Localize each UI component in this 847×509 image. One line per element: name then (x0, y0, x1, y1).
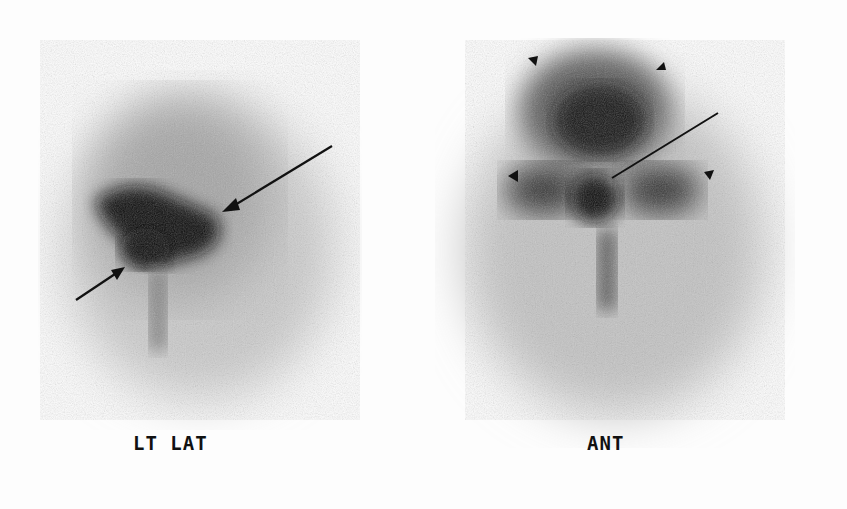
left-lateral-scan (40, 40, 360, 420)
anterior-scan (465, 40, 785, 420)
label-anterior: ANT (587, 432, 624, 454)
scan-images (0, 0, 847, 509)
scintigraphy-figure: LT LAT ANT (0, 0, 847, 509)
label-left-lateral: LT LAT (133, 432, 208, 454)
